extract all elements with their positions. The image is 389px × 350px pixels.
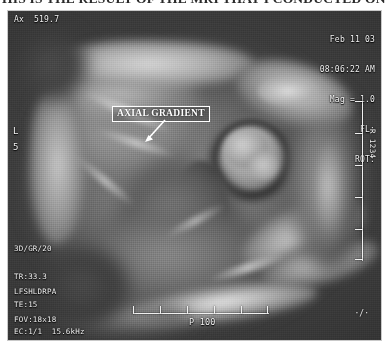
param-fov: FOV:18x18	[14, 315, 75, 324]
ruler-tick	[214, 306, 215, 314]
ruler-tick	[355, 165, 363, 166]
ruler-axis	[362, 101, 363, 261]
param-coil: LFSHLDRPA	[14, 287, 75, 296]
orientation-marker-posterior: P 100	[189, 318, 216, 327]
axial-gradient-callout: AXIAL GRADIENT	[112, 106, 210, 122]
ruler-tick	[267, 306, 268, 314]
document-header-text-strip: HIS IS THE RESULT OF THE MRI THAT I COND…	[0, 0, 389, 10]
ruler-tick	[355, 197, 363, 198]
scan-header-right: Feb 11 03 08:06:22 AM Mag = 1.0 FL: ROT:	[320, 15, 375, 185]
ruler-tick	[355, 259, 363, 260]
corner-marker: ·/·	[355, 309, 369, 318]
ruler-tick	[355, 229, 363, 230]
scan-rotation-label: ROT:	[320, 155, 375, 165]
arrow-down-left-icon	[142, 119, 168, 143]
ruler-tick	[160, 306, 161, 314]
ruler-tick	[355, 101, 363, 102]
orientation-marker-right: R 1234	[368, 129, 377, 159]
param-sequence: 3D/GR/20	[14, 244, 85, 253]
mri-scan-image: Ax 519.7 Feb 11 03 08:06:22 AM Mag = 1.0…	[8, 11, 381, 340]
scan-date: Feb 11 03	[320, 35, 375, 45]
scan-flip-label: FL:	[320, 125, 375, 135]
orientation-marker-left: L 5	[13, 123, 19, 155]
ruler-tick	[187, 306, 188, 314]
scan-magnification: Mag = 1.0	[320, 95, 375, 105]
vertical-scale-ruler	[354, 101, 363, 261]
ruler-axis	[133, 313, 269, 314]
horizontal-scale-ruler	[133, 305, 269, 314]
scan-parameters-geometry: LFSHLDRPA FOV:18x18 2.0thk/0.0sp 28/04:3…	[14, 269, 75, 340]
ruler-tick	[241, 306, 242, 314]
document-header-text: HIS IS THE RESULT OF THE MRI THAT I COND…	[2, 0, 386, 7]
ruler-tick	[133, 306, 134, 314]
ruler-tick	[355, 133, 363, 134]
scan-header-left: Ax 519.7	[14, 15, 59, 25]
scan-time: 08:06:22 AM	[320, 65, 375, 75]
